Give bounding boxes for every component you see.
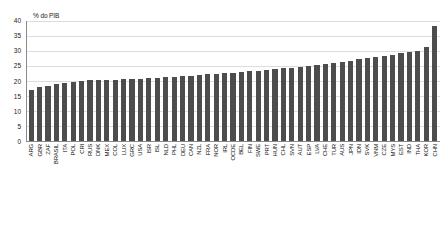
- bar-ita: [62, 83, 67, 141]
- x-label-slot: NZL: [195, 144, 203, 202]
- x-tick-nor: NOR: [213, 144, 219, 157]
- x-label-slot: LUX: [119, 144, 127, 202]
- y-tick-30: 30: [0, 48, 21, 55]
- bar-svn: [289, 68, 294, 142]
- bar-slot: [195, 21, 203, 141]
- x-label-slot: ARG: [27, 144, 35, 202]
- x-label-slot: NOR: [212, 144, 220, 202]
- x-tick-mex: MEX: [104, 144, 110, 156]
- x-label-slot: GRC: [128, 144, 136, 202]
- x-tick-grc: GRC: [129, 144, 135, 157]
- bar-slot: [27, 21, 35, 141]
- x-tick-swe: SWE: [255, 144, 261, 157]
- bar-slot: [405, 21, 413, 141]
- bar-slot: [145, 21, 153, 141]
- bar-slot: [397, 21, 405, 141]
- x-label-slot: CHL: [279, 144, 287, 202]
- bar-mex: [104, 80, 109, 141]
- bar-aut: [298, 67, 303, 141]
- x-axis-labels: ARGGBRZAFBRASILITAPOLCRIRUSDNKMEXCOLLUXG…: [27, 144, 439, 202]
- bar-slot: [388, 21, 396, 141]
- bar-phl: [172, 77, 177, 141]
- bar-slot: [254, 21, 262, 141]
- x-label-slot: DNK: [94, 144, 102, 202]
- bar-slot: [246, 21, 254, 141]
- bar-est: [398, 53, 403, 141]
- bar-slot: [313, 21, 321, 141]
- bar-slot: [220, 21, 228, 141]
- x-tick-pol: POL: [70, 144, 76, 155]
- bar-slot: [52, 21, 60, 141]
- bar-slot: [414, 21, 422, 141]
- x-tick-prt: PRT: [264, 144, 270, 155]
- bar-esp: [306, 66, 311, 141]
- bar-hun: [272, 69, 277, 141]
- x-tick-fin: FIN: [247, 144, 253, 153]
- y-tick-20: 20: [0, 78, 21, 85]
- bar-slot: [237, 21, 245, 141]
- x-label-slot: LVA: [313, 144, 321, 202]
- bar-mys: [390, 55, 395, 141]
- x-tick-svk: SVK: [364, 144, 370, 155]
- x-tick-fra: FRA: [205, 144, 211, 155]
- x-label-slot: THA: [414, 144, 422, 202]
- x-label-slot: PHL: [170, 144, 178, 202]
- bar-slot: [262, 21, 270, 141]
- bar-gbr: [37, 87, 42, 141]
- x-tick-lva: LVA: [314, 144, 320, 154]
- bar-slot: [296, 21, 304, 141]
- bar-slot: [321, 21, 329, 141]
- bar-slot: [330, 21, 338, 141]
- x-tick-brasil: BRASIL: [53, 144, 59, 164]
- bar-isl: [155, 78, 160, 141]
- x-label-slot: IND: [405, 144, 413, 202]
- x-tick-tur: TUR: [331, 144, 337, 156]
- x-tick-rus: RUS: [87, 144, 93, 156]
- x-tick-dnk: DNK: [95, 144, 101, 156]
- x-label-slot: ITA: [61, 144, 69, 202]
- bar-slot: [170, 21, 178, 141]
- bar-slot: [288, 21, 296, 141]
- x-tick-mys: MYS: [390, 144, 396, 156]
- bar-arg: [29, 90, 34, 141]
- x-tick-nld: NLD: [163, 144, 169, 155]
- x-tick-aus: AUS: [339, 144, 345, 156]
- x-tick-hun: HUN: [272, 144, 278, 156]
- bar-slot: [44, 21, 52, 141]
- bar-brasil: [54, 84, 59, 141]
- bar-tha: [415, 51, 420, 141]
- x-label-slot: FIN: [246, 144, 254, 202]
- bar-jpn: [348, 61, 353, 141]
- x-label-slot: COL: [111, 144, 119, 202]
- x-label-slot: BEL: [237, 144, 245, 202]
- bar-dnk: [96, 80, 101, 141]
- bar-slot: [178, 21, 186, 141]
- bar-bel: [239, 72, 244, 141]
- x-label-slot: SWE: [254, 144, 262, 202]
- x-tick-esp: ESP: [306, 144, 312, 155]
- x-tick-zaf: ZAF: [45, 144, 51, 155]
- bar-series: [27, 21, 439, 141]
- x-tick-jpn: JPN: [348, 144, 354, 155]
- bar-swe: [256, 71, 261, 141]
- bar-slot: [422, 21, 430, 141]
- bar-slot: [271, 21, 279, 141]
- bar-pol: [71, 82, 76, 141]
- bar-idn: [356, 59, 361, 141]
- bar-slot: [111, 21, 119, 141]
- x-label-slot: CAN: [187, 144, 195, 202]
- bar-lux: [121, 79, 126, 141]
- x-label-slot: CRI: [77, 144, 85, 202]
- x-label-slot: USA: [136, 144, 144, 202]
- bar-tur: [331, 63, 336, 141]
- bar-can: [188, 76, 193, 141]
- bar-usa: [138, 79, 143, 141]
- x-label-slot: BRASIL: [52, 144, 60, 202]
- x-label-slot: IDN: [355, 144, 363, 202]
- x-tick-idn: IDN: [356, 144, 362, 154]
- x-label-slot: ISL: [153, 144, 161, 202]
- x-tick-chl: CHL: [280, 144, 286, 155]
- y-tick-5: 5: [0, 124, 21, 131]
- x-label-slot: ISR: [145, 144, 153, 202]
- bar-fin: [247, 71, 252, 141]
